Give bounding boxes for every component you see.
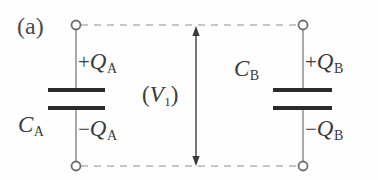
charge-subscript-b-positive: B [334, 61, 343, 76]
charge-subscript-a-positive: A [107, 61, 117, 76]
terminal-node-bottom-right [299, 162, 308, 171]
capacitor-symbol-a: C [18, 112, 33, 137]
voltage-arrowhead-up [192, 26, 199, 36]
voltage-label: (V1) [142, 83, 178, 108]
charge-symbol-b-negative: Q [317, 116, 334, 141]
capacitor-subscript-a: A [34, 124, 44, 139]
charge-subscript-b-negative: B [334, 128, 343, 143]
charge-label-a-positive: +QA [78, 50, 117, 76]
capacitor-symbol-b: C [234, 56, 249, 81]
charge-sign-b-negative: − [305, 117, 317, 141]
charge-sign-b-positive: + [305, 50, 317, 74]
charge-symbol-a-negative: Q [90, 116, 107, 141]
charge-symbol-b-positive: Q [317, 49, 334, 74]
voltage-symbol: V [150, 82, 164, 107]
charge-sign-a-positive: + [78, 50, 90, 74]
charge-subscript-a-negative: A [107, 128, 117, 143]
charge-symbol-a-positive: Q [90, 49, 107, 74]
terminal-node-top-left [72, 21, 81, 30]
terminal-node-top-right [299, 21, 308, 30]
voltage-open-paren: ( [142, 82, 150, 107]
voltage-arrowhead-down [192, 156, 199, 166]
capacitor-label-a: CA [18, 113, 44, 139]
charge-label-a-negative: −QA [78, 117, 117, 143]
voltage-close-paren: ) [171, 82, 179, 107]
charge-sign-a-negative: − [78, 117, 90, 141]
panel-label: (a) [17, 14, 44, 38]
terminal-node-bottom-left [72, 162, 81, 171]
capacitor-subscript-b: B [250, 68, 259, 83]
circuit-schematic-svg [0, 0, 378, 180]
capacitor-label-b: CB [234, 57, 259, 83]
capacitor-circuit-figure: (a) +QA −QA CA (V1) CB +QB −QB [0, 0, 378, 180]
charge-label-b-positive: +QB [305, 50, 343, 76]
charge-label-b-negative: −QB [305, 117, 343, 143]
